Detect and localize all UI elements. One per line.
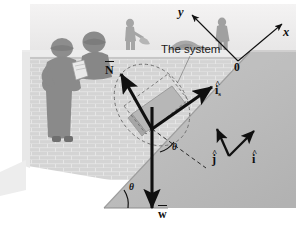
normal-force-overbar-wrap: N [105, 64, 114, 76]
system-label: The system [161, 44, 220, 56]
force-application-point [150, 127, 153, 130]
axis-x-label: x [283, 26, 289, 39]
weight-angle-label: θ [172, 143, 177, 153]
normal-force-letter: N [105, 63, 114, 77]
physics-diagram-figure: The system 0 y x N ^ i s w ^ j ^ i θ θ [0, 0, 296, 232]
i-hat-wrap: ^ i [252, 153, 255, 165]
unit-vector-i-label: ^ i [252, 153, 255, 165]
scene-background [0, 0, 296, 232]
incline-unit-vector-label: ^ i s [215, 84, 221, 98]
axis-y-label: y [178, 6, 184, 19]
hat-accent: ^ [215, 80, 218, 89]
incline-top-band [250, 52, 296, 70]
diagram-canvas [0, 0, 296, 232]
j-hat-wrap: ^ j [212, 153, 216, 165]
overbar [158, 205, 167, 206]
incline-angle-label: θ [129, 183, 134, 193]
weight-overbar-wrap: w [158, 208, 167, 220]
origin-label: 0 [234, 62, 240, 74]
weight-label: w [158, 208, 167, 220]
hat-accent: ^ [252, 149, 255, 158]
wall-left-edge [22, 52, 30, 168]
hat-accent: ^ [212, 149, 216, 158]
weight-letter: w [158, 207, 167, 221]
overbar [105, 61, 114, 62]
i-hat-wrap: ^ i [215, 84, 218, 96]
unit-vector-j-label: ^ j [212, 153, 216, 165]
incline-unit-vector-subscript: s [218, 90, 221, 98]
normal-force-label: N [105, 64, 114, 76]
